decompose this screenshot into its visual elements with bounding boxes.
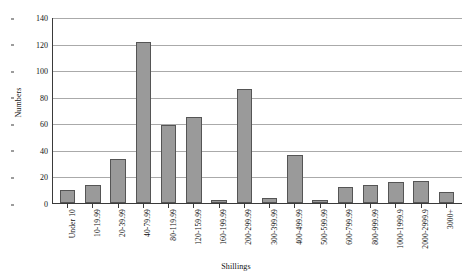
bar-slot [55,18,80,203]
x-axis-tick-mark [92,204,93,208]
bar-slot [282,18,307,203]
y-axis-tick-label: 20 [14,173,48,182]
y-axis-tick-mark [11,204,14,205]
y-axis-tick-label: 120 [14,40,48,49]
x-axis-tick-mark [294,204,295,208]
y-axis-tick-label: 0 [14,200,48,209]
bar [312,200,328,203]
plot-area [52,18,462,204]
y-axis-tick-labels: 020406080100120140 [10,18,48,204]
x-axis-tick-mark [168,204,169,208]
x-axis-tick-label: 1000-1999.9 [396,209,405,249]
x-axis-tick-label: 500-599.99 [320,209,329,245]
y-axis-tick-mark [11,177,14,178]
bar-slot [106,18,131,203]
bar-slot [232,18,257,203]
y-axis-tick-mark [11,18,14,19]
x-label-slot: 120-159.99 [181,209,206,261]
x-axis-tick-label: 120-159.99 [194,209,203,245]
bar [439,192,455,203]
bar-slot [383,18,408,203]
x-axis-tick-label: 20-39.99 [118,209,127,237]
bar-slot [434,18,459,203]
bar-slot [207,18,232,203]
x-axis-tick-label: 200-299.99 [244,209,253,245]
x-axis-tick-label: Under 10 [68,209,77,238]
x-label-slot: 300-399.99 [257,209,282,261]
x-axis-tick-mark [193,204,194,208]
bar [110,159,126,203]
bar [186,117,202,203]
bar-slot [80,18,105,203]
x-label-slot: Under 10 [55,209,80,261]
bar-slot [181,18,206,203]
x-label-slot: 40-79.99 [131,209,156,261]
bar-slot [257,18,282,203]
x-axis-tick-mark [395,204,396,208]
x-axis-tick-mark [345,204,346,208]
x-label-slot: 600-799.99 [333,209,358,261]
bar [262,198,278,203]
x-label-slot: 3000+ [434,209,459,261]
x-axis-tick-labels: Under 1010-19.9920-39.9940-79.9980-119.9… [52,209,462,261]
x-label-slot: 800-999.99 [358,209,383,261]
x-axis-tick-label: 400-499.99 [295,209,304,245]
y-axis-tick-mark [11,151,14,152]
bar-slot [333,18,358,203]
bar [363,185,379,204]
x-label-slot: 160-199.99 [207,209,232,261]
x-axis-tick-label: 40-79.99 [143,209,152,237]
bar [211,200,227,203]
y-axis-tick-label: 100 [14,67,48,76]
bar [60,190,76,203]
x-label-slot: 400-499.99 [282,209,307,261]
x-label-slot: 1000-1999.9 [383,209,408,261]
x-axis-tick-mark [143,204,144,208]
y-axis-tick-label: 140 [14,14,48,23]
bar [287,155,303,203]
x-axis-tick-label: 300-399.99 [270,209,279,245]
bar-slot [131,18,156,203]
y-axis-tick-mark [11,124,14,125]
x-label-slot: 20-39.99 [106,209,131,261]
x-axis-title: Shillings [0,262,472,271]
bar [388,182,404,203]
x-axis-tick-mark [320,204,321,208]
bar-chart: Numbers 020406080100120140 Under 1010-19… [0,0,472,280]
x-axis-tick-label: 600-799.99 [345,209,354,245]
x-label-slot: 500-599.99 [308,209,333,261]
x-axis-tick-mark [370,204,371,208]
bar [338,187,354,203]
bar [237,89,253,203]
x-label-slot: 200-299.99 [232,209,257,261]
y-axis-tick-label: 60 [14,120,48,129]
x-axis-tick-label: 3000+ [446,209,455,229]
x-label-slot: 2000-2999.9 [409,209,434,261]
y-axis-tick-label: 40 [14,146,48,155]
bar-slot [308,18,333,203]
x-axis-tick-label: 10-19.99 [93,209,102,237]
bar [161,125,177,203]
x-label-slot: 10-19.99 [80,209,105,261]
x-axis-tick-mark [118,204,119,208]
x-axis-tick-label: 800-999.99 [371,209,380,245]
y-axis-tick-label: 80 [14,93,48,102]
bar-slot [358,18,383,203]
x-axis-tick-mark [421,204,422,208]
bars-group [52,18,462,204]
x-axis-tick-label: 80-119.99 [169,209,178,241]
bar [85,185,101,204]
x-axis-tick-mark [446,204,447,208]
y-axis-tick-mark [11,71,14,72]
bar [136,42,152,203]
bar-slot [409,18,434,203]
y-axis-tick-mark [11,45,14,46]
x-axis-tick-mark [67,204,68,208]
y-axis-tick-mark [11,98,14,99]
x-axis-tick-mark [269,204,270,208]
x-axis-tick-label: 160-199.99 [219,209,228,245]
bar [413,181,429,203]
bar-slot [156,18,181,203]
x-label-slot: 80-119.99 [156,209,181,261]
x-axis-tick-mark [219,204,220,208]
